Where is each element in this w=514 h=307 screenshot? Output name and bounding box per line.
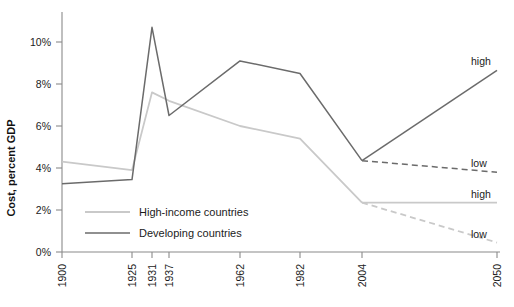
endpoint-label-low: low	[471, 157, 487, 169]
series-line-developing-countries-high-projection	[362, 70, 497, 160]
endpoint-label-low: low	[471, 228, 487, 240]
legend-label: Developing countries	[139, 227, 242, 239]
x-tick-label: 1962	[234, 264, 246, 288]
series-line-high-income-countries	[62, 92, 362, 202]
x-axis-ticks: 19001925193119371962198220042050	[56, 252, 503, 287]
y-tick-label: 4%	[36, 162, 51, 174]
line-chart: Cost, percent GDP 0%2%4%6%8%10% 19001925…	[0, 0, 514, 307]
chart-container: Cost, percent GDP 0%2%4%6%8%10% 19001925…	[0, 0, 514, 307]
series-layer	[62, 27, 497, 242]
x-tick-label: 2004	[356, 264, 368, 288]
annotation-layer: highlowhighlow	[471, 55, 491, 239]
y-tick-label: 8%	[36, 78, 51, 90]
y-tick-label: 0%	[36, 246, 51, 258]
x-tick-label: 1931	[146, 264, 158, 288]
y-tick-label: 2%	[36, 204, 51, 216]
y-tick-label: 10%	[30, 36, 51, 48]
endpoint-label-high: high	[471, 55, 491, 67]
x-tick-label: 1900	[56, 264, 68, 288]
series-line-developing-countries	[62, 27, 362, 183]
chart-legend: High-income countriesDeveloping countrie…	[85, 206, 249, 239]
legend-label: High-income countries	[139, 206, 249, 218]
endpoint-label-high: high	[471, 188, 491, 200]
x-tick-label: 2050	[491, 264, 503, 288]
y-tick-label: 6%	[36, 120, 51, 132]
x-tick-label: 1937	[163, 264, 175, 288]
y-axis-title: Cost, percent GDP	[5, 119, 17, 216]
x-tick-label: 1925	[126, 264, 138, 288]
x-tick-label: 1982	[294, 264, 306, 288]
y-axis-ticks: 0%2%4%6%8%10%	[30, 36, 62, 258]
